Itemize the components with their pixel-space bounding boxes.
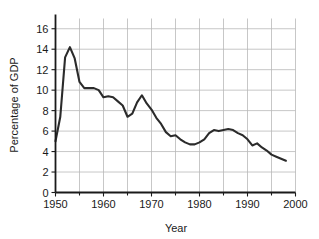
- y-axis-title: Percentage of GDP: [8, 57, 20, 152]
- x-tick-label: 2000: [283, 198, 307, 210]
- x-axis-tick-labels: 195019601970198019902000: [43, 198, 307, 210]
- x-tick-label: 1980: [187, 198, 211, 210]
- y-tick-label: 8: [42, 105, 48, 117]
- x-tick-label: 1960: [91, 198, 115, 210]
- chart-svg: 195019601970198019902000 0246810121416 Y…: [0, 0, 319, 239]
- data-line-defense-spending: [56, 47, 286, 161]
- gridlines: [56, 19, 296, 193]
- y-axis-tick-labels: 0246810121416: [36, 23, 48, 199]
- chart-screenshot: 195019601970198019902000 0246810121416 Y…: [0, 0, 319, 239]
- x-tick-label: 1970: [139, 198, 163, 210]
- y-tick-label: 16: [36, 23, 48, 35]
- x-axis-title: Year: [165, 222, 188, 234]
- y-tick-label: 2: [42, 166, 48, 178]
- tick-marks: [52, 29, 296, 197]
- x-tick-label: 1950: [43, 198, 67, 210]
- plot-area: [56, 47, 286, 161]
- y-tick-label: 4: [42, 146, 48, 158]
- y-tick-label: 12: [36, 64, 48, 76]
- y-tick-label: 10: [36, 84, 48, 96]
- line-chart-figure: 195019601970198019902000 0246810121416 Y…: [0, 0, 319, 239]
- y-tick-label: 0: [42, 187, 48, 199]
- y-tick-label: 6: [42, 125, 48, 137]
- x-tick-label: 1990: [235, 198, 259, 210]
- y-tick-label: 14: [36, 43, 48, 55]
